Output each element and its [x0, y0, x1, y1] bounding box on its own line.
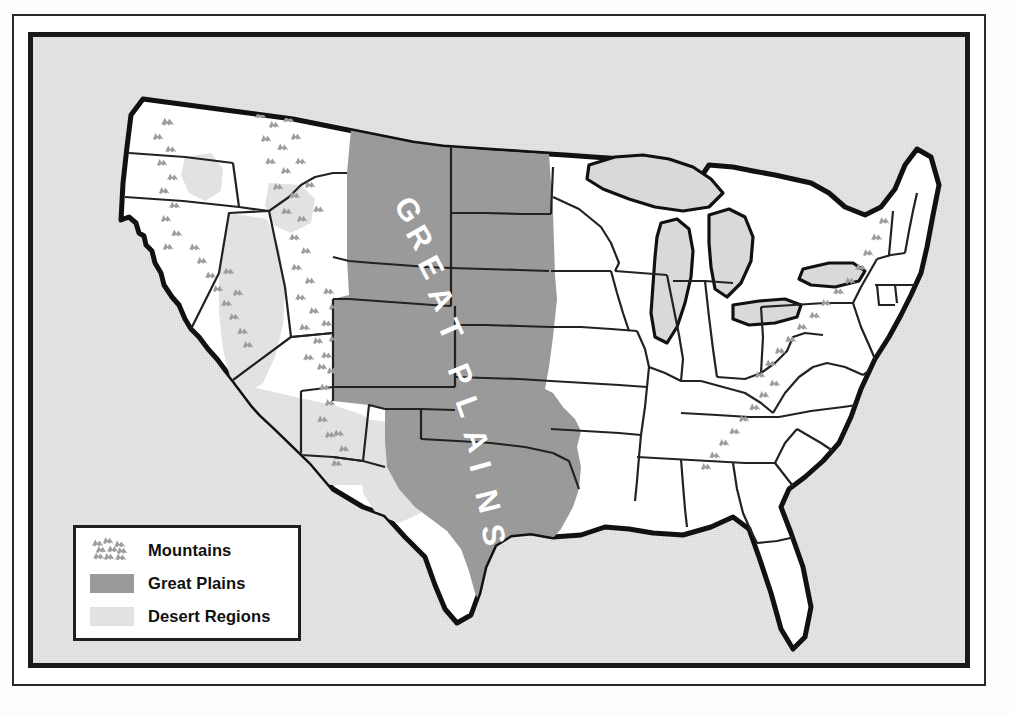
light-gray-swatch [90, 607, 134, 626]
legend-item-mountains: Mountains [76, 534, 298, 567]
legend-label-desert-regions: Desert Regions [148, 607, 270, 626]
map-stage: G R E A T P L A I N S [33, 37, 965, 663]
legend-label-mountains: Mountains [148, 541, 231, 560]
legend-label-great-plains: Great Plains [148, 574, 246, 593]
solid-gray-swatch [90, 574, 134, 593]
map-page: G R E A T P L A I N S [0, 0, 1014, 715]
mountain-symbol-swatch [90, 541, 134, 560]
map-frame: G R E A T P L A I N S [28, 32, 970, 668]
legend-item-great-plains: Great Plains [76, 567, 298, 600]
legend-item-desert-regions: Desert Regions [76, 600, 298, 633]
lake-ontario [799, 263, 865, 287]
map-legend: Mountains Great Plains Desert Regions [73, 525, 301, 641]
